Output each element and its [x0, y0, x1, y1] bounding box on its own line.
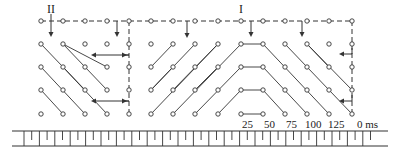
activation-sequence-diagram: II I 25 50 75 100 125 0 ms	[0, 0, 397, 156]
wave-label-II: II	[47, 2, 55, 16]
electrode-point	[149, 65, 153, 69]
electrode-point	[239, 112, 243, 116]
electrode-point	[105, 42, 109, 46]
electrode-point	[216, 65, 220, 69]
electrode-point	[39, 42, 43, 46]
electrode-point	[39, 65, 43, 69]
electrode-point	[283, 42, 287, 46]
electrode-point	[239, 42, 243, 46]
arrow-left-icon	[91, 53, 96, 58]
electrode-point	[193, 65, 197, 69]
electrode-point	[261, 112, 265, 116]
electrode-point	[283, 65, 287, 69]
electrode-point	[350, 112, 354, 116]
electrode-point	[327, 19, 331, 23]
electrode-point	[149, 88, 153, 92]
electrode-point	[61, 65, 65, 69]
electrode-point	[216, 88, 220, 92]
time-tick-label-25: 25	[242, 118, 254, 130]
electrode-point	[171, 42, 175, 46]
electrode-point	[261, 19, 265, 23]
electrode-point	[327, 112, 331, 116]
electrode-point	[171, 19, 175, 23]
arrow-down-icon	[249, 32, 254, 37]
electrode-point	[39, 88, 43, 92]
electrode-point	[149, 19, 153, 23]
electrode-point	[261, 65, 265, 69]
electrode-point	[83, 88, 87, 92]
electrode-point	[193, 42, 197, 46]
electrode-point	[61, 112, 65, 116]
wave-label-I: I	[239, 2, 243, 16]
electrode-point	[216, 19, 220, 23]
activation-lines	[41, 44, 352, 114]
arrow-down-icon	[185, 33, 190, 38]
electrode-point	[83, 19, 87, 23]
electrode-point	[127, 112, 131, 116]
electrode-point	[39, 112, 43, 116]
electrode-point	[305, 65, 309, 69]
electrode-point	[216, 112, 220, 116]
electrode-point	[149, 112, 153, 116]
time-ruler	[12, 131, 388, 146]
electrode-point	[305, 88, 309, 92]
electrode-point	[193, 112, 197, 116]
electrode-point	[327, 65, 331, 69]
time-tick-label-125: 125	[328, 118, 345, 130]
time-tick-label-50: 50	[264, 118, 276, 130]
electrode-point	[127, 42, 131, 46]
time-unit-label: 0 ms	[357, 118, 378, 130]
electrode-point	[193, 88, 197, 92]
electrode-point	[350, 65, 354, 69]
electrode-point	[327, 42, 331, 46]
electrode-point	[216, 42, 220, 46]
electrode-point	[261, 88, 265, 92]
electrode-point	[193, 19, 197, 23]
electrode-point	[305, 42, 309, 46]
time-tick-label-75: 75	[286, 118, 298, 130]
electrode-point	[83, 42, 87, 46]
electrode-point	[305, 19, 309, 23]
electrode-point	[239, 19, 243, 23]
electrode-point	[283, 88, 287, 92]
electrode-point	[350, 42, 354, 46]
electrode-point	[83, 112, 87, 116]
arrow-down-icon	[300, 32, 305, 37]
electrode-point	[327, 88, 331, 92]
electrode-point	[83, 65, 87, 69]
electrode-point	[283, 19, 287, 23]
electrode-point	[127, 88, 131, 92]
electrode-point	[305, 112, 309, 116]
time-tick-label-100: 100	[305, 118, 322, 130]
electrode-point	[171, 65, 175, 69]
electrode-point	[105, 65, 109, 69]
electrode-point	[261, 42, 265, 46]
electrode-point	[171, 112, 175, 116]
electrode-point	[105, 88, 109, 92]
electrode-point	[149, 42, 153, 46]
arrow-down-icon	[115, 32, 120, 37]
arrow-right-icon	[122, 99, 127, 104]
arrow-right-icon	[122, 53, 127, 58]
electrode-point	[127, 65, 131, 69]
electrode-point	[350, 19, 354, 23]
electrode-point	[239, 88, 243, 92]
electrode-point	[61, 42, 65, 46]
electrode-point	[61, 88, 65, 92]
electrode-point	[171, 88, 175, 92]
electrode-point	[61, 19, 65, 23]
electrode-point	[105, 112, 109, 116]
electrode-point	[283, 112, 287, 116]
electrode-point	[105, 19, 109, 23]
electrode-point	[350, 88, 354, 92]
electrode-point	[39, 19, 43, 23]
electrode-point	[127, 19, 131, 23]
arrow-left-icon	[339, 52, 344, 57]
electrode-points	[39, 19, 354, 116]
electrode-point	[239, 65, 243, 69]
arrow-down-icon	[49, 32, 54, 37]
